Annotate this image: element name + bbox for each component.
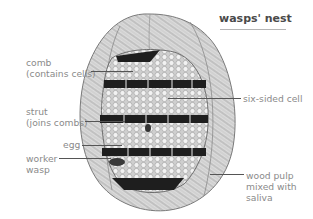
leader-wood-pulp	[210, 174, 244, 175]
label-wood-pulp: wood pulp mixed with saliva	[246, 170, 297, 203]
worker-wasp	[109, 158, 125, 166]
label-strut: strut (joins combs)	[26, 106, 88, 128]
diagram-title: wasps' nest	[219, 12, 292, 25]
leader-six-sided-cell	[168, 98, 241, 99]
leader-comb	[91, 71, 133, 72]
label-egg: egg	[63, 139, 80, 150]
leader-egg	[82, 145, 122, 146]
label-comb: comb (contains cells)	[26, 57, 96, 79]
leader-strut	[85, 121, 125, 122]
label-six-sided-cell: six-sided cell	[243, 93, 302, 104]
title-underline	[220, 29, 286, 30]
leader-worker-wasp	[59, 158, 111, 159]
label-worker-wasp: worker wasp	[26, 153, 57, 175]
